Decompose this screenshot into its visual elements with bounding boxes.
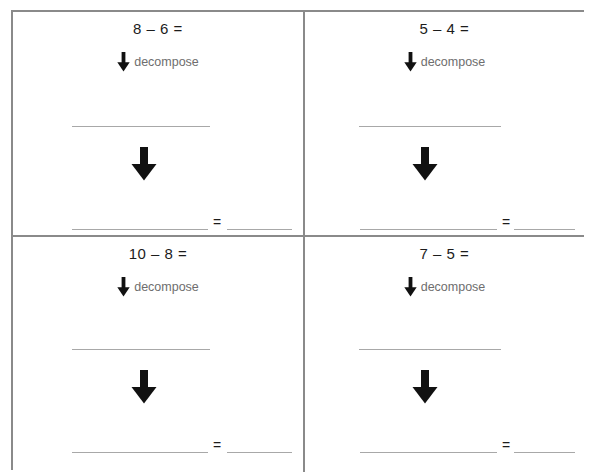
answer-blank-long[interactable] [72,229,208,230]
equals-sign: = [213,215,221,229]
decompose-step: decompose [13,52,303,72]
answer-blank-long[interactable] [360,452,497,453]
work-line-blank[interactable] [359,349,501,350]
arrow-down-icon [117,277,130,297]
arrow-down-icon [131,370,157,404]
answer-blank-short[interactable] [227,229,292,230]
problem-cell-2[interactable]: 5 – 4 = decompose = [303,12,584,235]
answer-row: = [305,210,584,230]
work-line-blank[interactable] [359,126,501,127]
equation-text: 10 – 8 = [13,245,303,262]
decompose-step: decompose [305,52,584,72]
equation-text: 7 – 5 = [305,245,584,262]
arrow-down-icon [117,52,130,72]
equation-text: 5 – 4 = [305,20,584,37]
work-line-blank[interactable] [72,349,210,350]
equals-sign: = [502,438,510,452]
decompose-label: decompose [421,56,486,69]
arrow-down-icon [404,277,417,297]
answer-blank-short[interactable] [514,229,575,230]
arrow-down-icon [404,52,417,72]
decompose-label: decompose [421,281,486,294]
answer-blank-long[interactable] [360,229,497,230]
equals-sign: = [502,215,510,229]
answer-row: = [13,210,303,230]
answer-blank-short[interactable] [227,452,292,453]
decompose-step: decompose [305,277,584,297]
arrow-down-icon [412,370,438,404]
equation-text: 8 – 6 = [13,20,303,37]
equals-sign: = [213,438,221,452]
problem-cell-3[interactable]: 10 – 8 = decompose = [13,235,303,472]
answer-blank-long[interactable] [72,452,208,453]
answer-row: = [13,433,303,453]
decompose-step: decompose [13,277,303,297]
decompose-label: decompose [134,56,199,69]
answer-row: = [305,433,584,453]
work-line-blank[interactable] [72,126,210,127]
problem-grid: 8 – 6 = decompose = [11,10,584,470]
decompose-label: decompose [134,281,199,294]
arrow-down-icon [131,147,157,181]
problem-cell-4[interactable]: 7 – 5 = decompose = [303,235,584,472]
problem-cell-1[interactable]: 8 – 6 = decompose = [13,12,303,235]
answer-blank-short[interactable] [514,452,575,453]
arrow-down-icon [412,147,438,181]
